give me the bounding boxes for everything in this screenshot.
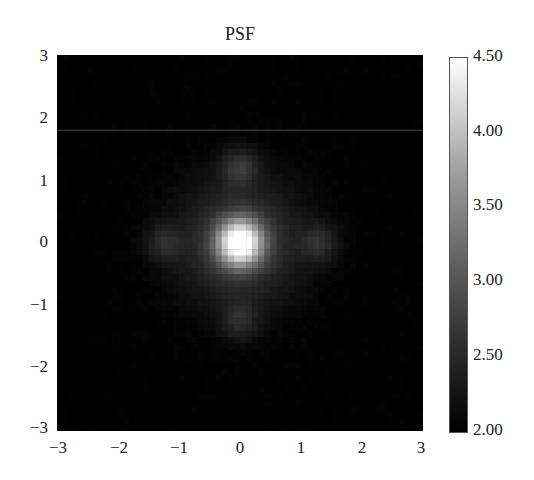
x-tick-2: 2 (342, 438, 382, 458)
x-tick-0: 0 (220, 438, 260, 458)
colorbar-tick-4-50: 4.50 (473, 46, 503, 66)
y-tick-1: 1 (0, 171, 48, 191)
colorbar-tick-4-00: 4.00 (473, 121, 503, 141)
colorbar-tick-3-00: 3.00 (473, 270, 503, 290)
y-tick-m2: −2 (0, 357, 48, 377)
y-tick-0: 0 (0, 232, 48, 252)
x-tick-m2: −2 (99, 438, 139, 458)
colorbar (449, 57, 468, 433)
x-tick-m3: −3 (38, 438, 78, 458)
colorbar-tick-2-00: 2.00 (473, 420, 503, 440)
y-tick-m1: −1 (0, 295, 48, 315)
y-tick-3: 3 (0, 46, 48, 66)
chart-title: PSF (0, 24, 480, 45)
y-tick-2: 2 (0, 108, 48, 128)
psf-heatmap (57, 55, 423, 431)
psf-figure: PSF 3 2 1 0 −1 −2 −3 −3 −2 −1 0 1 2 3 4.… (0, 0, 534, 480)
x-tick-1: 1 (281, 438, 321, 458)
heatmap-canvas (57, 55, 423, 431)
x-tick-m1: −1 (159, 438, 199, 458)
colorbar-tick-3-50: 3.50 (473, 195, 503, 215)
y-tick-m3: −3 (0, 418, 48, 438)
x-tick-3: 3 (401, 438, 441, 458)
colorbar-tick-2-50: 2.50 (473, 345, 503, 365)
